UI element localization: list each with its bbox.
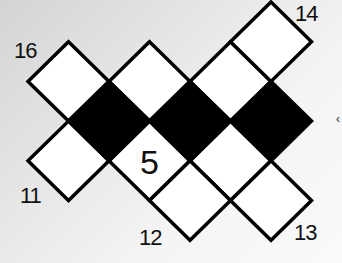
clue-16: 16: [14, 40, 36, 62]
chevron-left-icon: ‹: [336, 113, 340, 125]
clue-13: 13: [294, 222, 316, 244]
puzzle-stage: 16 14 11 12 13 5 ‹: [0, 0, 342, 263]
diagonal-grid-board: [0, 0, 342, 263]
clue-12: 12: [139, 227, 161, 249]
given-number-5: 5: [140, 145, 159, 179]
clue-11: 11: [20, 185, 41, 207]
clue-14: 14: [295, 3, 317, 25]
